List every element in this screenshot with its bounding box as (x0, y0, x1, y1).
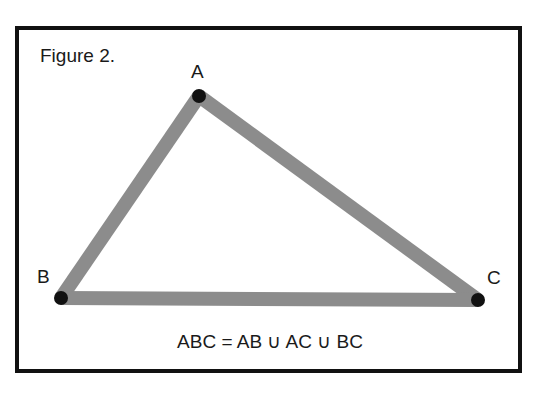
triangle-abc (61, 96, 478, 300)
segment-ac (199, 96, 478, 300)
segment-ab (61, 96, 199, 298)
label-c: C (487, 267, 501, 288)
point-a (192, 89, 206, 103)
point-c (471, 293, 485, 307)
figure-caption: Figure 2. (40, 45, 115, 66)
figure-canvas: Figure 2. A B C ABC = AB ∪ AC ∪ BC (0, 0, 546, 397)
union-equation: ABC = AB ∪ AC ∪ BC (177, 331, 363, 352)
segment-bc (61, 298, 478, 300)
label-a: A (191, 61, 204, 82)
figure-frame (17, 28, 520, 371)
label-b: B (37, 266, 50, 287)
point-b (54, 291, 68, 305)
